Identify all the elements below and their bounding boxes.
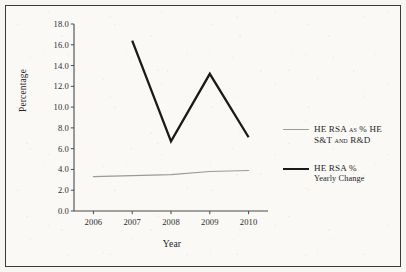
y-tick-label: 12.0 <box>40 81 69 91</box>
legend-label-line1: HE RSA as % HE <box>314 124 382 134</box>
y-tick-label: 6.0 <box>40 144 69 154</box>
y-tick-label: 16.0 <box>40 40 69 50</box>
plot-area: 0.02.04.06.08.010.012.014.016.018.0 2006… <box>0 0 406 272</box>
y-tick-label: 18.0 <box>40 19 69 29</box>
chart-legend: HE RSA as % HE S&T and R&D HE RSA % Year… <box>283 124 401 202</box>
legend-entry-he-rsa-share: HE RSA as % HE S&T and R&D <box>283 124 401 146</box>
x-tick-label: 2006 <box>85 217 103 227</box>
legend-label-line2: Yearly Change <box>314 174 401 184</box>
series-line-he-rsa-share <box>93 170 248 176</box>
legend-entry-he-rsa-yearly-change: HE RSA % Yearly Change <box>283 163 401 185</box>
x-axis-title: Year <box>163 238 181 249</box>
y-tick-label: 4.0 <box>40 164 69 174</box>
legend-swatch-gray <box>283 129 309 130</box>
y-tick-label: 8.0 <box>40 123 69 133</box>
legend-swatch-black <box>283 168 309 170</box>
y-tick-label: 0.0 <box>40 206 69 216</box>
legend-label-he-rsa-yearly-change: HE RSA % Yearly Change <box>314 163 401 185</box>
y-tick-label: 2.0 <box>40 185 69 195</box>
y-tick-label: 10.0 <box>40 102 69 112</box>
legend-label-he-rsa-share: HE RSA as % HE S&T and R&D <box>314 124 401 146</box>
y-axis-title: Percentage <box>18 69 28 112</box>
legend-label-line1: HE RSA % <box>314 163 357 173</box>
x-tick-label: 2008 <box>162 217 180 227</box>
series-line-he-rsa-yearly-change <box>132 41 248 142</box>
legend-label-line2: S&T and R&D <box>314 135 401 145</box>
y-tick-label: 14.0 <box>40 61 69 71</box>
x-tick-label: 2010 <box>240 217 258 227</box>
x-tick-label: 2009 <box>201 217 219 227</box>
x-tick-label: 2007 <box>123 217 141 227</box>
figure-container: 0.02.04.06.08.010.012.014.016.018.0 2006… <box>0 0 406 272</box>
